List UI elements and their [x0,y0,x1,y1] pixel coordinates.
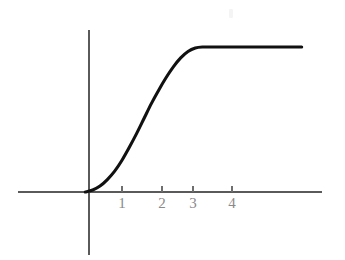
x-axis-tick-marks [122,186,232,192]
x-tick-label-1: 1 [112,196,132,211]
scan-speck-artifact [229,9,233,18]
sigmoid-curve [85,47,301,192]
chart-figure: 1 2 3 4 [0,0,345,260]
x-tick-label-4: 4 [222,196,242,211]
x-tick-label-3: 3 [183,196,203,211]
x-tick-label-2: 2 [152,196,172,211]
plot-canvas [0,0,345,260]
